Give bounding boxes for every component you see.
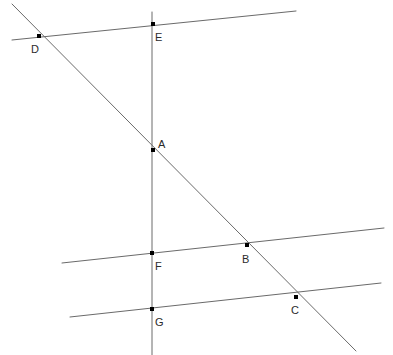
labels-group: ABCDEFG xyxy=(31,31,299,328)
points-group xyxy=(37,22,298,311)
point-g xyxy=(150,307,154,311)
point-c xyxy=(294,295,298,299)
lines-group xyxy=(12,4,384,355)
point-label-c: C xyxy=(291,304,299,316)
bottom-transversal-line xyxy=(70,283,381,317)
point-label-g: G xyxy=(155,316,164,328)
point-label-d: D xyxy=(31,43,39,55)
geometry-canvas: ABCDEFG xyxy=(0,0,393,355)
point-f xyxy=(150,251,154,255)
point-label-f: F xyxy=(155,260,162,272)
point-label-e: E xyxy=(155,31,162,43)
point-label-b: B xyxy=(242,253,249,265)
point-d xyxy=(37,34,41,38)
point-a xyxy=(151,148,155,152)
geometry-figure: ABCDEFG xyxy=(0,0,393,355)
point-label-a: A xyxy=(158,138,166,150)
point-b xyxy=(245,243,249,247)
diagonal-line xyxy=(12,4,356,351)
middle-transversal-line xyxy=(62,228,384,263)
point-e xyxy=(151,22,155,26)
